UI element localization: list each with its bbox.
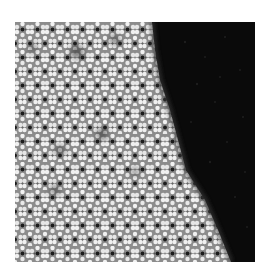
microscopy-image [15, 22, 255, 262]
image-description: Grayscale microscopy image of an atomic … [0, 0, 1, 1]
lattice-image-svg [15, 22, 255, 262]
